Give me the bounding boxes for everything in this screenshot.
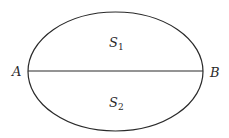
- label-region-s2-base: S: [109, 95, 118, 110]
- label-region-s1-base: S: [109, 35, 118, 50]
- label-point-a: A: [11, 64, 21, 79]
- ellipse-diagram: A B S1 S2: [0, 0, 229, 138]
- label-region-s1-subscript: 1: [118, 42, 124, 52]
- label-point-b: B: [209, 65, 220, 80]
- label-region-s2-subscript: 2: [118, 102, 124, 112]
